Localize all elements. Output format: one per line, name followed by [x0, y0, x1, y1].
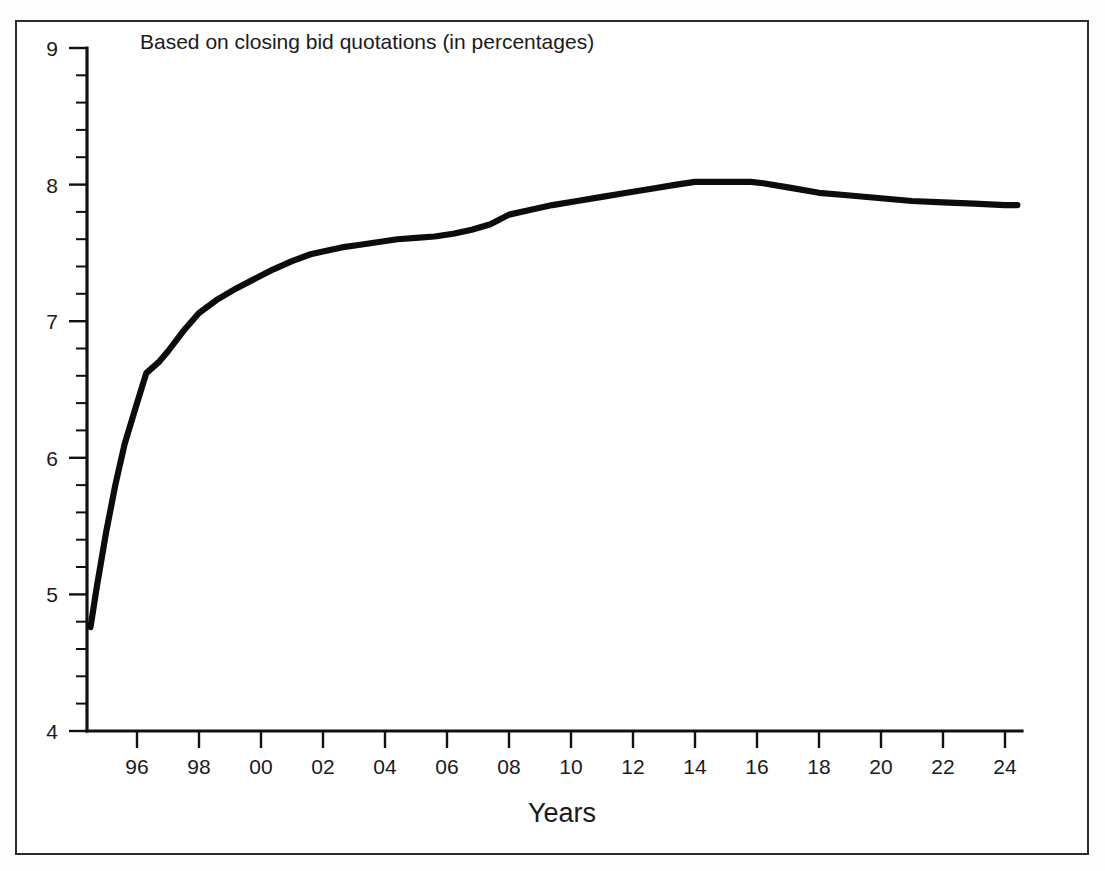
x-axis-ticks — [137, 731, 1005, 748]
x-tick-label: 12 — [621, 755, 644, 778]
chart-title: Based on closing bid quotations (in perc… — [140, 30, 594, 53]
y-tick-label: 7 — [46, 310, 58, 333]
x-tick-label: 02 — [311, 755, 334, 778]
x-tick-label: 16 — [745, 755, 768, 778]
x-tick-label: 06 — [435, 755, 458, 778]
y-axis-ticks — [69, 48, 87, 731]
x-tick-label: 08 — [497, 755, 520, 778]
series-line-closing-bid — [91, 182, 1018, 627]
x-axis-label: Years — [528, 798, 596, 828]
figure-frame: Based on closing bid quotations (in perc… — [15, 20, 1089, 855]
x-tick-label: 24 — [993, 755, 1017, 778]
x-tick-label: 04 — [373, 755, 397, 778]
y-tick-label: 9 — [46, 37, 58, 60]
x-tick-label: 10 — [559, 755, 582, 778]
x-tick-label: 22 — [931, 755, 954, 778]
x-tick-label: 20 — [869, 755, 892, 778]
x-tick-label: 96 — [125, 755, 148, 778]
x-axis-tick-labels: 96 98 00 02 04 06 08 10 12 14 16 18 20 2… — [125, 755, 1017, 778]
x-tick-label: 00 — [249, 755, 272, 778]
x-tick-label: 18 — [807, 755, 830, 778]
y-tick-label: 6 — [46, 447, 58, 470]
x-tick-label: 14 — [683, 755, 707, 778]
y-tick-label: 8 — [46, 174, 58, 197]
y-tick-label: 4 — [46, 720, 58, 743]
x-tick-label: 98 — [187, 755, 210, 778]
y-tick-label: 5 — [46, 583, 58, 606]
line-chart: Based on closing bid quotations (in perc… — [17, 22, 1087, 853]
y-axis-tick-labels: 9 8 7 6 5 4 — [46, 37, 58, 743]
page-canvas: Based on closing bid quotations (in perc… — [0, 0, 1105, 871]
